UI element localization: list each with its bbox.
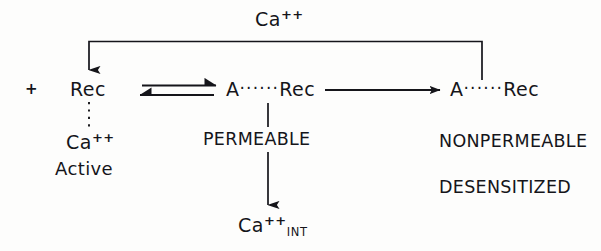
calcium-feedback-path xyxy=(89,42,482,81)
desensitized-state-label: DESENSITIZED xyxy=(439,179,571,197)
active-calcium-formula: Ca xyxy=(66,131,92,153)
internal-calcium-label: Ca++INT xyxy=(238,214,308,239)
reaction-diagram: Ca++ + Rec Ca++ Active A······Rec PERMEA… xyxy=(0,0,601,251)
desensitized-complex-label: A······Rec xyxy=(450,80,539,99)
bound-complex-receptor: Rec xyxy=(279,78,315,100)
desensitized-complex-receptor: Rec xyxy=(503,78,539,100)
feedback-calcium-formula: Ca xyxy=(255,8,281,30)
desensitized-complex-agonist: A xyxy=(450,78,464,100)
internal-calcium-subscript: INT xyxy=(287,225,308,239)
permeable-state-label: PERMEABLE xyxy=(203,131,310,149)
active-state-label: Active xyxy=(55,160,113,178)
desensitized-complex-dotted-bond: ······ xyxy=(464,78,504,98)
bound-complex-agonist: A xyxy=(226,78,240,100)
feedback-calcium-charge: ++ xyxy=(281,7,304,22)
leading-plus-sign: + xyxy=(25,82,38,97)
nonpermeable-state-label: NONPERMEABLE xyxy=(439,133,587,151)
active-calcium-label: Ca++ xyxy=(66,131,115,152)
bound-complex-label: A······Rec xyxy=(226,80,315,99)
free-receptor-label: Rec xyxy=(70,80,106,99)
equilibrium-arrow xyxy=(140,86,216,96)
bound-complex-dotted-bond: ······ xyxy=(240,78,280,98)
internal-calcium-charge: ++ xyxy=(264,213,287,228)
feedback-calcium-label: Ca++ xyxy=(255,8,304,29)
active-calcium-charge: ++ xyxy=(92,130,115,145)
internal-calcium-formula: Ca xyxy=(238,214,264,236)
